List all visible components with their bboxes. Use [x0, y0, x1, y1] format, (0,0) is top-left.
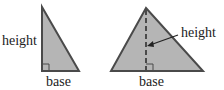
left-base-label: base: [46, 74, 71, 89]
left-height-label: height: [2, 33, 37, 48]
right-acute-triangle: height base: [111, 8, 216, 89]
left-right-triangle: height base: [2, 7, 79, 89]
right-height-label: height: [181, 25, 216, 40]
right-triangle-shape: [42, 7, 79, 71]
triangle-area-diagram: height base height base: [0, 0, 224, 90]
right-base-label: base: [139, 74, 164, 89]
